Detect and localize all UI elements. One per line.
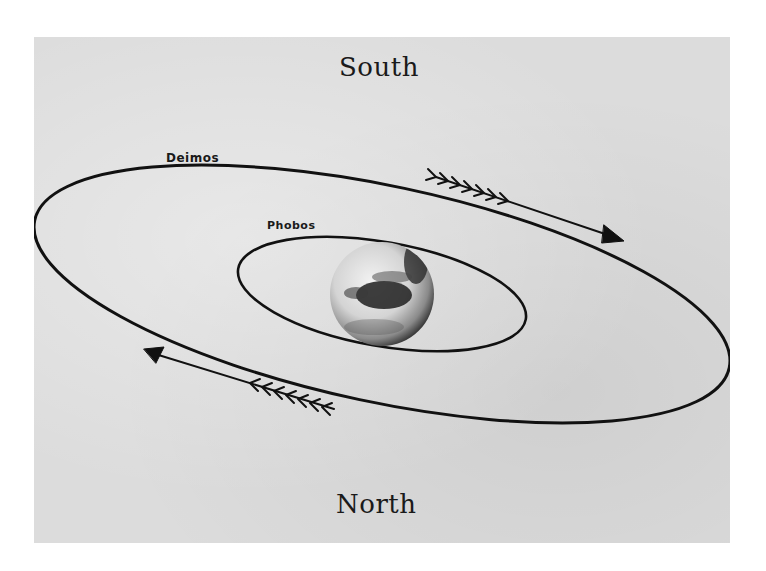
orbit-label-phobos: Phobos <box>267 219 315 232</box>
orbit-label-deimos: Deimos <box>166 151 219 165</box>
planet-sphere-icon <box>330 240 434 346</box>
feathered-arrow-icon <box>426 169 624 243</box>
feathered-arrow-icon <box>144 347 334 415</box>
direction-label-south: South <box>339 52 419 82</box>
direction-label-north: North <box>336 489 417 519</box>
orbit-diagram <box>34 37 730 543</box>
diagram-plate: South Deimos Phobos North <box>34 37 730 543</box>
